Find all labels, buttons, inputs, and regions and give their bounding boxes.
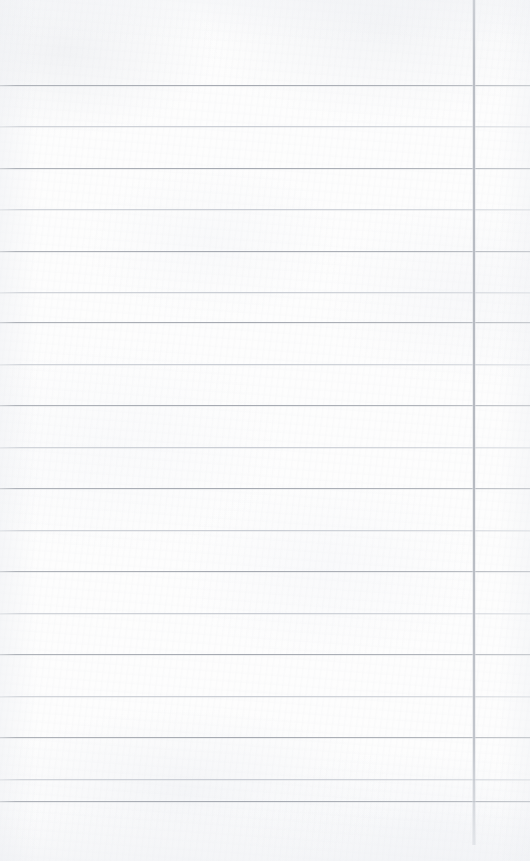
notepad-page <box>0 0 530 861</box>
header-zone[interactable] <box>0 0 530 85</box>
body-writing-area[interactable] <box>0 85 530 801</box>
footer-zone[interactable] <box>0 801 530 861</box>
